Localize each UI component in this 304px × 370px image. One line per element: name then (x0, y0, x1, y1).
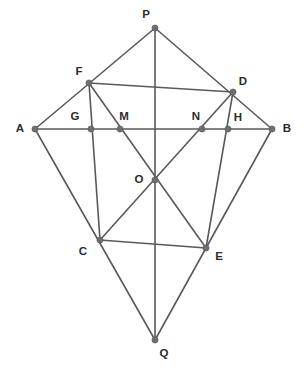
segment-f-e-diagonal (89, 83, 206, 248)
vertex-label-f: F (75, 65, 82, 77)
vertex-dot-e[interactable] (203, 245, 209, 251)
vertex-dot-m[interactable] (117, 126, 123, 132)
geometry-canvas: PFDABGMNHOCEQ (0, 0, 304, 370)
vertex-label-d: D (239, 75, 247, 87)
vertex-dot-b[interactable] (269, 126, 275, 132)
labels-layer: PFDABGMNHOCEQ (16, 8, 291, 359)
geometry-diagram: PFDABGMNHOCEQ (0, 0, 304, 370)
vertices-layer (32, 25, 275, 343)
segment-a-p (35, 28, 155, 129)
segment-c-e (100, 240, 206, 248)
vertex-dot-g[interactable] (88, 126, 94, 132)
vertex-dot-h[interactable] (225, 126, 231, 132)
vertex-dot-d[interactable] (230, 89, 236, 95)
vertex-dot-o[interactable] (152, 177, 158, 183)
vertex-label-n: N (192, 110, 200, 122)
vertex-dot-q[interactable] (152, 337, 158, 343)
vertex-label-a: A (16, 122, 24, 134)
vertex-dot-p[interactable] (152, 25, 158, 31)
segment-f-c (89, 83, 100, 240)
vertex-label-m: M (119, 110, 129, 122)
vertex-dot-a[interactable] (32, 126, 38, 132)
vertex-dot-f[interactable] (86, 80, 92, 86)
segment-q-b (155, 129, 272, 340)
vertex-label-b: B (283, 122, 291, 134)
vertex-label-e: E (215, 250, 223, 262)
vertex-label-q: Q (160, 347, 169, 359)
vertex-label-o: O (135, 173, 144, 185)
vertex-dot-n[interactable] (199, 126, 205, 132)
edges-layer (35, 28, 272, 340)
vertex-label-c: C (79, 245, 87, 257)
vertex-dot-c[interactable] (97, 237, 103, 243)
segment-f-d (89, 83, 233, 92)
vertex-label-p: P (142, 8, 150, 20)
vertex-label-h: H (234, 111, 242, 123)
vertex-label-g: G (71, 110, 80, 122)
